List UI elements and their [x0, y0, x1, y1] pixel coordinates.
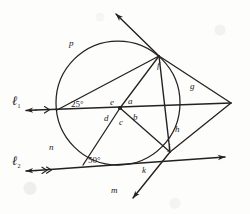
arc-label-p: p	[68, 38, 74, 48]
center-intersection-point	[118, 106, 122, 110]
angle-label-b: b	[133, 112, 138, 122]
angle-label-a: a	[128, 96, 133, 106]
arc-label-n: n	[49, 142, 54, 152]
point-label-j: j	[167, 142, 171, 152]
angle-label-d: d	[104, 113, 109, 123]
segment-f-to-right-vertex	[159, 56, 231, 103]
line-label-l2: ℓ2	[12, 153, 20, 169]
geometry-figure: ℓ1 ℓ2 25° 50° e a d c b f j p n m k h g	[0, 0, 250, 214]
angle-label-50: 50°	[88, 155, 101, 165]
chord-lowerleft-to-f	[83, 56, 159, 165]
chord-center-to-j	[120, 108, 170, 152]
arc-label-h: h	[175, 124, 180, 134]
arc-label-g: g	[190, 81, 195, 91]
angle-label-c: c	[119, 117, 123, 127]
line-l2	[26, 157, 225, 173]
angle-label-25: 25°	[71, 99, 84, 109]
arc-label-k: k	[142, 165, 147, 175]
line-label-l1: ℓ1	[12, 93, 20, 109]
diagram-canvas: ℓ1 ℓ2 25° 50° e a d c b f j p n m k h g	[0, 0, 250, 214]
angle-label-e: e	[110, 97, 114, 107]
arc-label-m: m	[111, 185, 118, 195]
